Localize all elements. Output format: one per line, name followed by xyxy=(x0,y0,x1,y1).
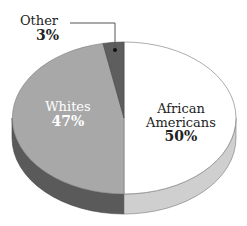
whites-name: Whites xyxy=(38,100,98,114)
whites-label: Whites 47% xyxy=(38,100,98,128)
aa-label: African Americans 50% xyxy=(136,102,226,144)
aa-name-1: African xyxy=(136,102,226,116)
other-pct: 3% xyxy=(8,28,70,43)
other-name: Other xyxy=(8,14,70,28)
other-leader-dot xyxy=(113,48,117,52)
other-label: Other 3% xyxy=(8,14,70,42)
whites-pct: 47% xyxy=(38,114,98,129)
aa-name-2: Americans xyxy=(136,116,226,130)
aa-pct: 50% xyxy=(136,129,226,144)
